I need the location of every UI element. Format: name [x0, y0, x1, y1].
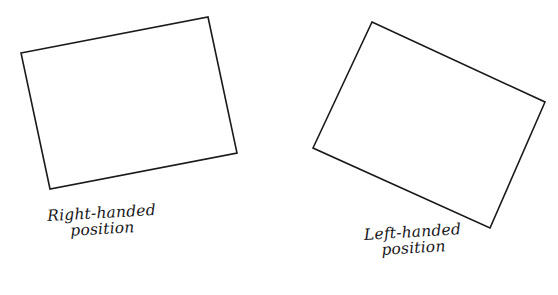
left-handed-sheet-shape [313, 22, 545, 228]
right-handed-sheet-shape [21, 17, 237, 189]
diagram-canvas: Right-handed position Left-handed positi… [0, 0, 558, 295]
